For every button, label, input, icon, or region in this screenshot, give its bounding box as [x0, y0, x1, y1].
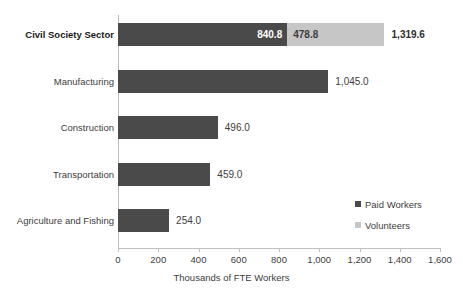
bar-value-label: 254.0: [176, 209, 201, 232]
bar-row: 496.0: [118, 116, 440, 139]
y-axis-category-labels: Civil Society SectorManufacturingConstru…: [0, 15, 114, 248]
x-axis-tick-mark: [239, 248, 240, 252]
bar-segment-paid-workers: [118, 70, 328, 93]
legend-item[interactable]: Volunteers: [355, 217, 422, 233]
x-axis-tick-mark: [118, 248, 119, 252]
bar-value-label-paid: 840.8: [118, 23, 287, 46]
legend-swatch-icon: [355, 201, 361, 207]
x-axis-tick-mark: [400, 248, 401, 252]
bar-chart: Civil Society SectorManufacturingConstru…: [0, 0, 463, 298]
bar-total-label: 1,319.6: [392, 23, 425, 46]
bar-row: 840.8478.81,319.6: [118, 23, 440, 46]
chart-legend: Paid WorkersVolunteers: [355, 196, 422, 238]
bar-segment-paid-workers: [118, 209, 169, 232]
x-axis-tick-mark: [360, 248, 361, 252]
x-axis-tick-label: 0: [115, 254, 120, 265]
x-axis-tick-label: 1,600: [428, 254, 452, 265]
category-label: Transportation: [2, 163, 114, 186]
x-axis-tick-label: 200: [150, 254, 166, 265]
legend-item[interactable]: Paid Workers: [355, 196, 422, 212]
x-axis-tick-label: 1,400: [388, 254, 412, 265]
legend-swatch-icon: [355, 222, 361, 228]
x-axis-tick-label: 1,200: [348, 254, 372, 265]
bar-value-label: 496.0: [225, 116, 250, 139]
x-axis-tick-label: 1,000: [307, 254, 331, 265]
bar-row: 1,045.0: [118, 70, 440, 93]
bar-value-label-volunteers: 478.8: [293, 23, 318, 46]
category-label: Construction: [2, 116, 114, 139]
bar-value-label: 459.0: [217, 163, 242, 186]
legend-label: Paid Workers: [365, 199, 422, 210]
x-axis-tick-mark: [319, 248, 320, 252]
category-label: Civil Society Sector: [2, 23, 114, 46]
bar-segment-paid-workers: [118, 116, 218, 139]
x-axis-title: Thousands of FTE Workers: [0, 272, 463, 283]
legend-label: Volunteers: [365, 220, 410, 231]
category-label: Agriculture and Fishing: [2, 209, 114, 232]
x-axis-tick-label: 400: [191, 254, 207, 265]
x-axis-tick-label: 800: [271, 254, 287, 265]
category-label: Manufacturing: [2, 70, 114, 93]
bar-segment-paid-workers: [118, 163, 210, 186]
bar-value-label: 1,045.0: [335, 70, 368, 93]
x-axis-tick-mark: [440, 248, 441, 252]
x-axis-tick-label: 600: [231, 254, 247, 265]
x-axis-tick-mark: [279, 248, 280, 252]
x-axis-tick-mark: [158, 248, 159, 252]
bar-row: 459.0: [118, 163, 440, 186]
x-axis-tick-mark: [199, 248, 200, 252]
